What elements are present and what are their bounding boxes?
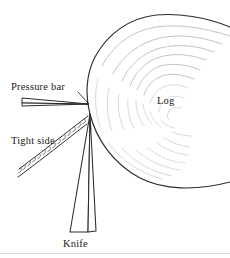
growth-ring-4b	[128, 98, 134, 128]
growth-ring-3	[122, 46, 214, 81]
label-knife: Knife	[63, 238, 88, 249]
label-pressure-bar: Pressure bar	[11, 81, 65, 92]
growth-ring-7b	[150, 112, 161, 127]
growth-ring-5	[137, 64, 200, 90]
label-log: Log	[157, 95, 175, 106]
pressure-bar-group	[22, 98, 89, 106]
growth-ring-6c	[164, 138, 190, 147]
growth-ring-1b	[96, 78, 100, 127]
growth-ring-9	[168, 108, 182, 120]
label-tight-side: Tight side	[11, 135, 55, 146]
growth-ring-8b	[161, 120, 174, 128]
knife-blade-back	[88, 114, 96, 232]
growth-ring-6	[144, 74, 194, 95]
growth-ring-5c	[157, 143, 188, 155]
growth-ring-4c	[148, 148, 185, 163]
growth-ring-2b	[107, 88, 112, 131]
veneer-lathe-diagram: Pressure bar Tight side Log Knife	[0, 0, 230, 258]
veneer-sheet	[18, 116, 88, 177]
growth-ring-1	[102, 26, 230, 66]
growth-ring-3c	[136, 150, 180, 170]
growth-ring-3b	[118, 94, 124, 130]
knife-group	[70, 114, 96, 232]
pressure-bar-lower	[22, 103, 89, 106]
veneer-lower-edge	[18, 124, 87, 177]
diagram-canvas: Pressure bar Tight side Log Knife	[0, 0, 230, 258]
lathe-check	[48, 147, 51, 152]
growth-ring-7c	[172, 132, 192, 136]
